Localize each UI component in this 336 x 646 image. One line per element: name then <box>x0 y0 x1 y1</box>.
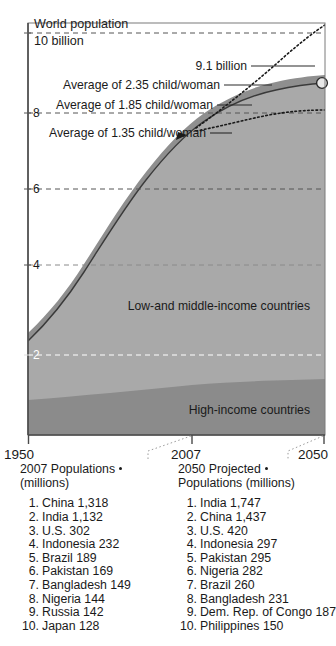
list-item-label: Indonesia 232 <box>42 538 119 552</box>
annotation-1-35-child-woman: Average of 1.35 child/woman <box>49 126 206 140</box>
list-item-label: China 1,318 <box>42 497 108 511</box>
list-item-label: China 1,437 <box>200 511 266 525</box>
population-chart: 8 6 4 2 World population 10 billion 9.1 … <box>0 0 336 460</box>
list-heading-2050-line2: Populations (millions) <box>178 476 336 490</box>
x-tick-label-2007: 2007 <box>171 447 201 460</box>
figure-page: 8 6 4 2 World population 10 billion 9.1 … <box>0 0 336 646</box>
list-item-rank: 10. <box>178 620 197 634</box>
list-column-2050: 2050 Projected Populations (millions) 1.… <box>168 462 336 646</box>
y-tick-label-6: 6 <box>33 182 40 196</box>
list-item-label: India 1,747 <box>200 497 261 511</box>
list-heading-2050-line1: 2050 Projected <box>178 462 336 476</box>
list-item-label: Bangladesh 231 <box>200 593 289 607</box>
list-item-rank: 3. <box>178 525 197 539</box>
list-heading-2007-text: 2007 Populations <box>20 462 115 476</box>
list-item-rank: 7. <box>20 579 39 593</box>
annotation-9-1-billion: 9.1 billion <box>196 59 248 73</box>
country-list-2007: 1.China 1,318 2.India 1,132 3.U.S. 302 4… <box>20 497 168 633</box>
list-heading-2050-text: 2050 Projected <box>178 462 261 476</box>
list-item: 1.China 1,318 <box>20 497 168 511</box>
annotation-1-85-child-woman: Average of 1.85 child/woman <box>56 98 213 112</box>
list-item-rank: 6. <box>178 565 197 579</box>
list-item-label: India 1,132 <box>42 511 103 525</box>
y-tick-label-2: 2 <box>33 348 40 362</box>
list-item: 8.Nigeria 144 <box>20 593 168 607</box>
chart-canvas: 8 6 4 2 World population 10 billion 9.1 … <box>0 0 336 460</box>
list-item: 5.Brazil 189 <box>20 552 168 566</box>
list-item-label: Nigeria 144 <box>42 593 105 607</box>
list-item: 4.Indonesia 232 <box>20 538 168 552</box>
list-item-label: Nigeria 282 <box>200 565 263 579</box>
y-tick-label-8: 8 <box>33 106 40 120</box>
list-item: 5.Pakistan 295 <box>178 552 336 566</box>
list-item-rank: 2. <box>20 511 39 525</box>
heading-dot-icon <box>119 467 122 470</box>
list-item-rank: 9. <box>20 606 39 620</box>
band-label-high-income: High-income countries <box>189 403 310 417</box>
list-item: 9.Dem. Rep. of Congo 187 <box>178 606 336 620</box>
list-item-label: Japan 128 <box>42 620 99 634</box>
list-item-rank: 4. <box>178 538 197 552</box>
list-item-rank: 5. <box>20 552 39 566</box>
list-item-rank: 6. <box>20 565 39 579</box>
list-column-2007: 2007 Populations (millions) 1.China 1,31… <box>0 462 168 646</box>
x-tick-label-1950: 1950 <box>4 447 34 460</box>
list-item: 9.Russia 142 <box>20 606 168 620</box>
y-tick-label-4: 4 <box>33 258 40 272</box>
list-item-rank: 1. <box>178 497 197 511</box>
list-item: 2.India 1,132 <box>20 511 168 525</box>
chart-title: World population <box>34 17 128 31</box>
list-item-label: Pakistan 169 <box>42 565 113 579</box>
list-item-label: Indonesia 297 <box>200 538 277 552</box>
list-item: 4.Indonesia 297 <box>178 538 336 552</box>
chart-title-value: 10 billion <box>34 34 84 48</box>
endpoint-marker-9-1-billion <box>317 78 328 89</box>
list-item-rank: 3. <box>20 525 39 539</box>
list-item-rank: 8. <box>178 593 197 607</box>
list-item-label: Russia 142 <box>42 606 104 620</box>
list-item-rank: 8. <box>20 593 39 607</box>
list-item: 3.U.S. 420 <box>178 525 336 539</box>
heading-dot-icon <box>265 467 268 470</box>
list-heading-2007-line2: (millions) <box>20 476 168 490</box>
list-heading-2007-line1: 2007 Populations <box>20 462 168 476</box>
list-item: 10.Japan 128 <box>20 620 168 634</box>
list-item-label: Brazil 189 <box>42 552 97 566</box>
country-list-2050: 1.India 1,747 2.China 1,437 3.U.S. 420 4… <box>178 497 336 633</box>
population-rankings: 2007 Populations (millions) 1.China 1,31… <box>0 462 336 646</box>
list-item-label: Pakistan 295 <box>200 552 271 566</box>
list-item: 1.India 1,747 <box>178 497 336 511</box>
list-item-label: Bangladesh 149 <box>42 579 131 593</box>
list-item-rank: 4. <box>20 538 39 552</box>
list-item-rank: 2. <box>178 511 197 525</box>
list-item: 2.China 1,437 <box>178 511 336 525</box>
list-item: 7.Brazil 260 <box>178 579 336 593</box>
list-item-label: Brazil 260 <box>200 579 255 593</box>
list-item-rank: 5. <box>178 552 197 566</box>
list-item-rank: 10. <box>20 620 39 634</box>
list-item-label: Philippines 150 <box>200 620 283 634</box>
annotation-2-35-child-woman: Average of 2.35 child/woman <box>63 78 220 92</box>
list-item: 8.Bangladesh 231 <box>178 593 336 607</box>
x-tick-label-2050: 2050 <box>298 447 328 460</box>
list-item-rank: 1. <box>20 497 39 511</box>
list-item: 7.Bangladesh 149 <box>20 579 168 593</box>
list-item: 3.U.S. 302 <box>20 525 168 539</box>
band-label-low-middle-income: Low-and middle-income countries <box>128 299 310 313</box>
list-item-rank: 9. <box>178 606 197 620</box>
list-item-rank: 7. <box>178 579 197 593</box>
list-item: 6.Nigeria 282 <box>178 565 336 579</box>
list-item-label: U.S. 420 <box>200 525 248 539</box>
list-item-label: Dem. Rep. of Congo 187 <box>200 606 336 620</box>
list-item-label: U.S. 302 <box>42 525 90 539</box>
list-item: 10.Philippines 150 <box>178 620 336 634</box>
list-item: 6.Pakistan 169 <box>20 565 168 579</box>
